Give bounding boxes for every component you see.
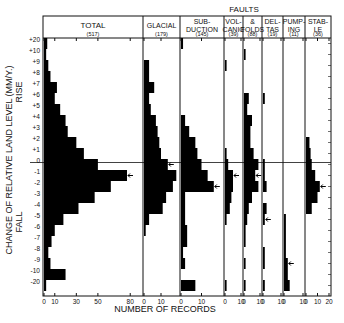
bar bbox=[44, 93, 55, 104]
arrow-icon bbox=[266, 218, 271, 222]
y-tick-label: +3 bbox=[33, 124, 41, 131]
x-tick-label: 0 bbox=[223, 298, 227, 305]
bar bbox=[263, 159, 265, 170]
fall-label: FALL bbox=[14, 211, 24, 232]
bar bbox=[44, 49, 46, 60]
bar bbox=[181, 137, 195, 148]
bar bbox=[44, 170, 127, 181]
bars bbox=[44, 38, 326, 291]
bar bbox=[244, 225, 246, 236]
bar bbox=[306, 137, 309, 148]
y-tick-label: -1 bbox=[34, 168, 40, 175]
bar bbox=[44, 247, 48, 258]
bar bbox=[44, 258, 50, 269]
bar bbox=[263, 181, 267, 192]
bar bbox=[44, 269, 66, 280]
bar bbox=[181, 203, 185, 214]
panel-title: SUB- bbox=[194, 18, 211, 25]
x-tick-label: 30 bbox=[73, 298, 81, 305]
bar bbox=[44, 181, 111, 192]
y-tick-label: +20 bbox=[29, 36, 40, 43]
bar bbox=[144, 148, 161, 159]
bar bbox=[44, 203, 78, 214]
bar bbox=[284, 225, 286, 236]
x-tick-label: 0 bbox=[304, 298, 308, 305]
bar bbox=[44, 225, 55, 236]
bar bbox=[225, 148, 227, 159]
y-tick-label: +8 bbox=[33, 69, 41, 76]
arrow-icon bbox=[234, 174, 239, 178]
bar bbox=[244, 49, 246, 60]
bar bbox=[181, 214, 185, 225]
bar bbox=[244, 93, 249, 104]
bar bbox=[225, 214, 227, 225]
y-tick-label: -7 bbox=[34, 234, 40, 241]
bar bbox=[284, 280, 290, 291]
panel-count: (145) bbox=[196, 31, 209, 37]
bar bbox=[263, 93, 265, 104]
bar bbox=[244, 137, 250, 148]
x-tick-label: 20 bbox=[325, 298, 333, 305]
bar bbox=[44, 71, 50, 82]
bar bbox=[263, 280, 265, 291]
panel-count: (11) bbox=[289, 31, 299, 37]
y-tick-label: -8 bbox=[34, 245, 40, 252]
arrow-icon bbox=[215, 185, 220, 189]
y-tick-label: +1 bbox=[33, 146, 41, 153]
bar bbox=[181, 280, 195, 291]
bar bbox=[225, 170, 233, 181]
histogram-chart: +20+10+9+8+7+6+5+4+3+2+10-1-2-3-4-5-6-7-… bbox=[0, 0, 344, 323]
bar bbox=[306, 148, 311, 159]
bar bbox=[284, 269, 288, 280]
bar bbox=[144, 93, 149, 104]
y-tick-label: -2 bbox=[34, 179, 40, 186]
bar bbox=[181, 236, 187, 247]
y-tick-label: +10 bbox=[29, 47, 40, 54]
bar bbox=[44, 82, 57, 93]
bar bbox=[244, 192, 252, 203]
bar bbox=[244, 159, 258, 170]
y-tick-label: -4 bbox=[34, 201, 40, 208]
x-tick-label: 10 bbox=[51, 298, 59, 305]
x-tick-label: 50 bbox=[94, 298, 102, 305]
bar bbox=[44, 115, 66, 126]
bar bbox=[181, 225, 187, 236]
bar bbox=[144, 60, 149, 71]
bar bbox=[306, 159, 312, 170]
bar bbox=[44, 236, 52, 247]
bar bbox=[244, 280, 246, 291]
panel-headers: TOTAL(517)GLACIAL(179)SUB-DUCTION(145)VO… bbox=[80, 18, 328, 37]
bar bbox=[244, 126, 250, 137]
bar bbox=[244, 104, 247, 115]
bar bbox=[44, 159, 98, 170]
bar bbox=[244, 236, 246, 247]
bar bbox=[144, 225, 146, 236]
bar bbox=[181, 192, 185, 203]
bar bbox=[306, 192, 318, 203]
bar bbox=[144, 192, 166, 203]
bar bbox=[225, 192, 231, 203]
bar bbox=[44, 60, 48, 71]
bar bbox=[144, 104, 151, 115]
bar bbox=[284, 214, 286, 225]
x-tick-label: 0 bbox=[242, 298, 246, 305]
panel-count: (36) bbox=[313, 31, 323, 37]
panel-count: (39) bbox=[229, 31, 239, 37]
bar bbox=[244, 203, 249, 214]
bar bbox=[263, 203, 267, 214]
y-tick-label: -10 bbox=[31, 267, 41, 274]
bar bbox=[181, 181, 214, 192]
bar bbox=[181, 115, 185, 126]
bar bbox=[144, 214, 149, 225]
y-tick-label: +4 bbox=[33, 113, 41, 120]
y-tick-label: +2 bbox=[33, 135, 41, 142]
bar bbox=[181, 170, 208, 181]
y-tick-label: +5 bbox=[33, 102, 41, 109]
x-axis-title: NUMBER OF RECORDS bbox=[114, 304, 216, 314]
bar bbox=[44, 214, 63, 225]
panel-count: (88) bbox=[248, 31, 258, 37]
panel-title: PUMP- bbox=[283, 18, 306, 25]
panel-count: (179) bbox=[155, 31, 168, 37]
bar bbox=[181, 148, 197, 159]
y-tick-label: -20 bbox=[31, 278, 41, 285]
